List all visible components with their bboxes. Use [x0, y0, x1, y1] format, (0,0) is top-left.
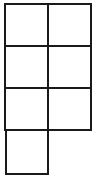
square-grid-diagram — [0, 0, 98, 183]
grid-cell-r3-c0 — [6, 130, 48, 174]
grid-cell-r2-c1 — [48, 88, 91, 130]
grid-cell-r1-c0 — [5, 46, 48, 88]
grid-cell-r0-c1 — [48, 4, 91, 46]
grid-cell-r2-c0 — [5, 88, 48, 130]
grid-cell-r0-c0 — [5, 4, 48, 46]
grid-cell-r1-c1 — [48, 46, 91, 88]
